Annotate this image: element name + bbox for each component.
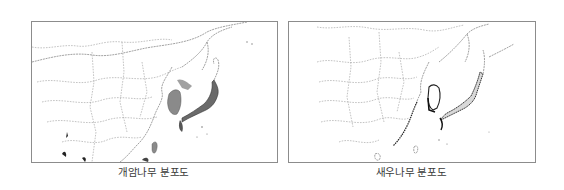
distribution-map-hornbeam	[288, 21, 536, 163]
map-east-asia	[32, 22, 277, 162]
map-east-asia	[289, 22, 535, 162]
distribution-map-hazel	[31, 21, 278, 163]
map-caption-left: 개암나무 분포도	[31, 164, 276, 179]
map-panel-left: 개암나무 분포도	[0, 0, 282, 190]
map-caption-right: 새우나무 분포도	[288, 164, 534, 179]
map-panel-right: 새우나무 분포도	[282, 0, 564, 190]
